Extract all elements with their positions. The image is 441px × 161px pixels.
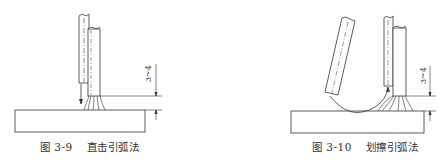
figure-number: 图 3-9 [40,141,73,153]
figure-caption: 图 3-10 划擦引弧法 [312,139,418,154]
figure-3-9-drawing [15,14,162,132]
workpiece-plate [291,111,424,133]
figure-3-10-drawing [291,16,436,133]
arc-lines [378,96,413,111]
electrode-intermediate-position [384,16,393,86]
dimension-label: 3~4 [419,67,428,84]
figure-number: 图 3-10 [312,141,352,153]
workpiece-plate [15,110,145,132]
arc-lines [84,96,105,110]
electrode-final-position [88,27,100,96]
electrode-tilted-position [325,17,355,95]
electrode-final-position [393,26,406,96]
figure-title: 划擦引弧法 [366,141,419,153]
diagram-canvas: 3~4 3~4 [0,0,441,161]
figure-title: 直击引弧法 [87,141,140,153]
electrode-initial-position [79,14,89,83]
dimension-label: 3~4 [144,65,153,82]
figure-caption: 图 3-9 直击引弧法 [40,139,139,154]
